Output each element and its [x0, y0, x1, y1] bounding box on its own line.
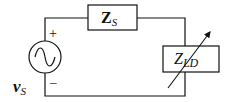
source-impedance: ZS: [88, 5, 137, 30]
source-label-sub: S: [21, 85, 27, 97]
sine-wave-icon: [35, 48, 55, 66]
load-impedance: ZLD: [163, 32, 219, 88]
circuit-diagram: + – vS ZS ZLD: [0, 0, 231, 102]
ac-source: + – vS: [13, 26, 61, 97]
source-impedance-label-sub: S: [112, 16, 118, 28]
wire-top-right: [137, 18, 185, 46]
wire-bottom: [45, 72, 185, 96]
source-impedance-label-main: Z: [101, 9, 112, 26]
minus-sign: –: [49, 74, 57, 89]
plus-sign: +: [49, 26, 57, 41]
source-label: vS: [13, 77, 27, 97]
